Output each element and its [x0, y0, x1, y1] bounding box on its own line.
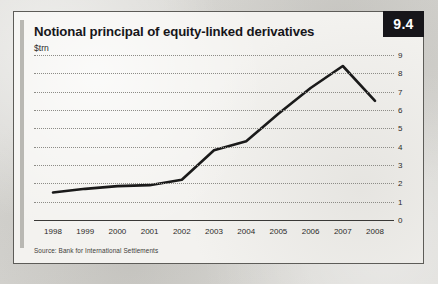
series-line-chart — [34, 55, 394, 220]
chart-source-note: Source: Bank for International Settlemen… — [34, 247, 158, 254]
y-axis-tick-label: 0 — [398, 216, 412, 225]
x-axis-tick-label: 2005 — [269, 227, 287, 236]
x-axis-tick-label: 2006 — [302, 227, 320, 236]
x-axis-tick-label: 2002 — [173, 227, 191, 236]
gridline — [34, 73, 394, 74]
x-axis-tick-label: 2007 — [334, 227, 352, 236]
x-axis-tick-label: 1998 — [44, 227, 62, 236]
y-axis-tick-label: 5 — [398, 124, 412, 133]
figure-number-badge: 9.4 — [383, 11, 424, 37]
y-axis-tick-label: 4 — [398, 142, 412, 151]
y-axis-tick-label: 3 — [398, 161, 412, 170]
gridline — [34, 147, 394, 148]
y-axis-tick-label: 8 — [398, 69, 412, 78]
x-axis-tick-label: 2001 — [141, 227, 159, 236]
figure-card: 9.4 Notional principal of equity-linked … — [13, 11, 424, 264]
x-axis-tick-label: 2004 — [237, 227, 255, 236]
page-title: Notional principal of equity-linked deri… — [34, 24, 314, 39]
gridline — [34, 165, 394, 166]
y-axis-tick-label: 2 — [398, 179, 412, 188]
x-axis-tick-label: 2008 — [366, 227, 384, 236]
x-axis-tick-label: 1999 — [76, 227, 94, 236]
y-axis-tick-label: 6 — [398, 106, 412, 115]
gridline — [34, 92, 394, 93]
y-axis-tick-label: 9 — [398, 51, 412, 60]
gridline — [34, 128, 394, 129]
y-axis-tick-label: 1 — [398, 197, 412, 206]
gridline — [34, 183, 394, 184]
chart-units-label: $trn — [34, 43, 49, 53]
left-accent-bar — [20, 20, 24, 248]
x-axis-tick-label: 2000 — [108, 227, 126, 236]
gridline — [34, 55, 394, 56]
gridline — [34, 110, 394, 111]
x-axis-tick-label: 2003 — [205, 227, 223, 236]
y-axis-tick-label: 7 — [398, 87, 412, 96]
gridline — [34, 202, 394, 203]
plot-area: 0123456789199819992000200120022003200420… — [34, 55, 394, 220]
x-axis-line — [34, 220, 394, 221]
